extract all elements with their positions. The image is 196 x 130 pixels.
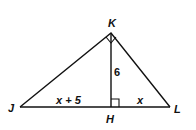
vertex-label-l: L [174,103,181,115]
segment-label-jh: x + 5 [55,94,82,106]
vertex-label-k: K [108,17,117,29]
right-angle-marker-h [111,99,119,107]
triangle-diagram: K J L H 6 x + 5 x [0,0,196,130]
segment-label-hl: x [136,94,144,106]
triangle-sides [20,33,170,107]
segment-label-kh: 6 [114,66,120,78]
vertex-label-h: H [106,113,115,125]
vertex-label-j: J [8,102,15,114]
